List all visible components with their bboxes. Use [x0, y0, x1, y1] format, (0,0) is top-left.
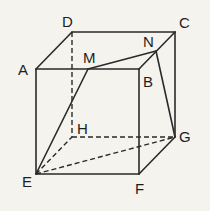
- label-B: B: [143, 73, 153, 90]
- edge-AD: [36, 32, 72, 69]
- edge-NG: [156, 51, 175, 137]
- label-G: G: [179, 128, 191, 145]
- label-A: A: [18, 61, 28, 78]
- edge-FG: [139, 137, 175, 174]
- label-F: F: [135, 180, 144, 197]
- label-M: M: [83, 49, 96, 66]
- cube-diagram: A B C D E F G H M N: [0, 0, 210, 211]
- label-H: H: [77, 120, 88, 137]
- edge-EG: [36, 137, 175, 174]
- label-N: N: [143, 33, 154, 50]
- edge-EH: [36, 137, 72, 174]
- label-C: C: [179, 14, 190, 31]
- edge-MN: [88, 51, 156, 69]
- label-E: E: [22, 173, 32, 190]
- label-D: D: [62, 13, 73, 30]
